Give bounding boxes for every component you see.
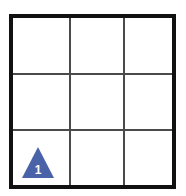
- grid-board[interactable]: 1: [9, 14, 176, 189]
- grid-surface: 1: [13, 18, 172, 185]
- grid-cell-r1c3[interactable]: [125, 18, 181, 74]
- grid-cell-r3c3[interactable]: [125, 131, 181, 187]
- triangle-marker-1[interactable]: 1: [22, 147, 54, 178]
- grid-cell-r1c1[interactable]: [13, 18, 69, 74]
- screenshot-canvas: 1: [0, 0, 186, 196]
- grid-cell-r2c2[interactable]: [71, 75, 127, 131]
- grid-cell-r3c1[interactable]: 1: [13, 131, 69, 187]
- grid-cell-r2c1[interactable]: [13, 75, 69, 131]
- grid-cell-r3c2[interactable]: [71, 131, 127, 187]
- grid-cell-r1c2[interactable]: [71, 18, 127, 74]
- grid-cell-r2c3[interactable]: [125, 75, 181, 131]
- triangle-up-icon: [22, 147, 54, 178]
